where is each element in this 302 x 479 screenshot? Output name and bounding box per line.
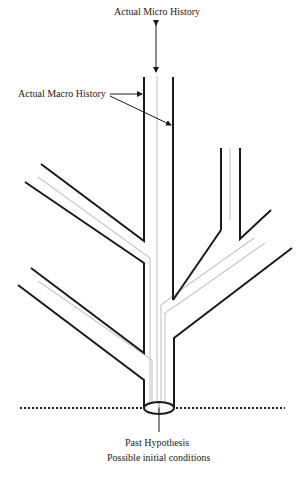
- initial-conditions-label: Possible initial conditions: [107, 452, 210, 464]
- micro-history-label: Actual Micro History: [114, 6, 200, 18]
- annotation-arrows: [110, 20, 171, 432]
- branching-histories-figure: [0, 0, 302, 479]
- macro-history-tube: [18, 77, 292, 408]
- macro-history-label: Actual Macro History: [18, 88, 106, 100]
- past-hypothesis-label: Past Hypothesis: [125, 437, 189, 449]
- micro-history-threads: [38, 76, 265, 408]
